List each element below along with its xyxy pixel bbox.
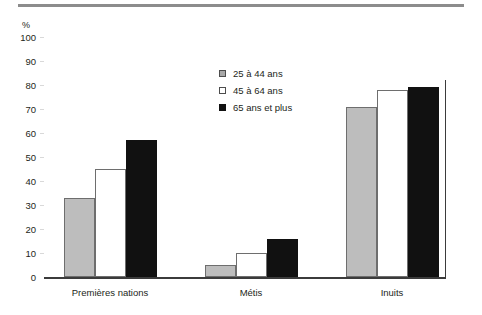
y-tickmark-20 — [40, 229, 44, 230]
bar-metis-65-plus — [267, 239, 298, 277]
plot-area: % 100 90 80 70 60 50 40 30 20 10 0 — [0, 0, 482, 315]
bar-premieres-nations-45-64 — [95, 169, 126, 277]
legend-item-45-64: 45 à 64 ans — [219, 83, 292, 98]
x-axis-baseline — [44, 277, 446, 279]
legend-item-25-44: 25 à 44 ans — [219, 66, 292, 81]
x-axis-label-metis: Métis — [191, 288, 311, 298]
grouped-bar-chart: % 100 90 80 70 60 50 40 30 20 10 0 — [0, 0, 482, 315]
y-tick-label-40: 40 — [0, 177, 36, 187]
bar-inuits-25-44 — [346, 107, 377, 277]
y-tick-label-30: 30 — [0, 201, 36, 211]
y-tick-label-90: 90 — [0, 57, 36, 67]
legend-swatch-grey-icon — [219, 70, 226, 77]
legend-item-65-plus: 65 ans et plus — [219, 100, 292, 115]
y-tick-label-50: 50 — [0, 153, 36, 163]
bar-inuits-45-64 — [377, 90, 408, 277]
x-axis-label-inuits: Inuits — [332, 288, 452, 298]
y-tick-label-80: 80 — [0, 81, 36, 91]
legend-swatch-black-icon — [219, 104, 226, 111]
y-tick-label-0: 0 — [0, 273, 36, 283]
x-axis-label-premieres-nations: Premières nations — [50, 288, 170, 298]
legend-label-65-plus: 65 ans et plus — [233, 103, 292, 113]
bar-inuits-65-plus — [408, 87, 439, 277]
legend-swatch-white-icon — [219, 87, 226, 94]
y-tickmark-80 — [40, 85, 44, 86]
y-tickmark-100 — [40, 37, 44, 38]
y-tickmark-60 — [40, 133, 44, 134]
legend-label-25-44: 25 à 44 ans — [233, 69, 283, 79]
y-tick-label-70: 70 — [0, 105, 36, 115]
y-tick-label-60: 60 — [0, 129, 36, 139]
y-axis-unit-label: % — [22, 21, 30, 30]
y-tickmark-90 — [40, 61, 44, 62]
y-tickmark-30 — [40, 205, 44, 206]
y-tick-label-100: 100 — [0, 33, 36, 43]
y-tickmark-10 — [40, 253, 44, 254]
legend: 25 à 44 ans 45 à 64 ans 65 ans et plus — [219, 66, 292, 117]
y-tick-label-20: 20 — [0, 225, 36, 235]
bar-metis-25-44 — [205, 265, 236, 277]
bar-premieres-nations-25-44 — [64, 198, 95, 277]
bar-premieres-nations-65-plus — [126, 140, 157, 277]
legend-label-45-64: 45 à 64 ans — [233, 86, 283, 96]
y-tick-label-10: 10 — [0, 249, 36, 259]
y-tickmark-70 — [40, 109, 44, 110]
y-tickmark-50 — [40, 157, 44, 158]
y-tickmark-40 — [40, 181, 44, 182]
right-axis-line — [445, 80, 447, 278]
bar-metis-45-64 — [236, 253, 267, 277]
